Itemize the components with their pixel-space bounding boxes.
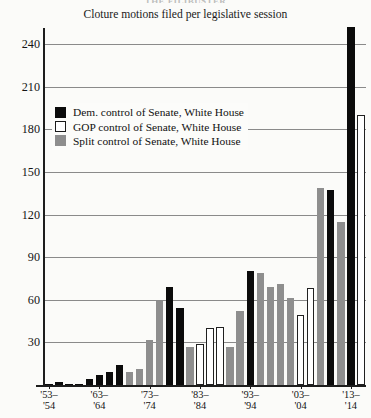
bar [126,372,133,385]
legend-item-dem: Dem. control of Senate, White House [55,105,244,119]
legend-label-gop: GOP control of Senate, White House [73,121,241,133]
legend-label-dem: Dem. control of Senate, White House [73,106,244,118]
bar [146,340,153,385]
bar [96,375,103,385]
bar [287,298,294,385]
y-axis-tick-150: 150 [0,164,40,179]
y-axis-tick-30: 30 [0,335,40,350]
bar [116,365,123,385]
chart-figure: THE FILIBUSTER Cloture motions filed per… [0,0,371,418]
gridline [44,87,366,88]
plot-area [44,44,366,385]
bar [106,372,113,385]
bar [247,271,254,385]
bar [257,273,264,385]
x-axis-tick-label: '03–'04 [281,389,321,412]
y-axis-tick-240: 240 [0,37,40,52]
bar [136,369,143,385]
x-axis-tick-label: '63–'64 [79,389,119,412]
x-axis-tick-label: '53–'54 [29,389,69,412]
bar [216,327,223,385]
bar [226,347,233,385]
black-square-icon [55,107,66,118]
y-axis-tick-60: 60 [0,292,40,307]
legend-item-split: Split control of Senate, White House [55,134,244,148]
x-axis-line [36,385,366,387]
chart-legend: Dem. control of Senate, White House GOP … [52,103,248,150]
y-axis-tick-210: 210 [0,79,40,94]
bar [156,301,163,385]
bar [196,344,203,385]
y-axis-tick-120: 120 [0,207,40,222]
x-axis-tick-label: '73–'74 [130,389,170,412]
legend-label-split: Split control of Senate, White House [73,135,240,147]
x-axis-tick-label: '83–'84 [180,389,220,412]
y-axis-tick-90: 90 [0,250,40,265]
bar [337,222,344,385]
gridline [44,44,366,45]
y-axis-tick-180: 180 [0,122,40,137]
bar [307,288,314,385]
gray-square-icon [55,135,66,146]
x-axis-tick-label: '93–'94 [230,389,270,412]
gridline [44,172,366,173]
bar [206,328,213,385]
white-square-icon [55,121,66,132]
bar [166,287,173,385]
y-axis-line [43,28,45,386]
legend-item-gop: GOP control of Senate, White House [55,119,244,133]
bar [176,308,183,385]
bar [357,115,364,385]
bar [277,284,284,385]
y-axis-tick-labels: 306090120150180210240 [0,0,40,418]
x-axis-tick-label: '13–'14 [331,389,371,412]
chart-subtitle: Cloture motions filed per legislative se… [0,8,371,21]
clipped-section-title: THE FILIBUSTER [0,0,371,3]
bar [267,287,274,385]
bar [317,188,324,385]
bar [236,311,243,385]
bar [327,190,334,385]
bar [186,347,193,385]
bar [347,27,354,385]
bar [297,315,304,385]
